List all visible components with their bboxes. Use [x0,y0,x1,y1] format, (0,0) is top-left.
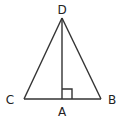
label-c: C [6,93,14,107]
label-b: B [108,93,116,107]
segment-db [62,18,101,99]
triangle-diagram: D C B A [0,0,119,119]
segment-dc [24,18,62,99]
label-a: A [58,105,67,119]
label-d: D [57,3,66,17]
right-angle-marker [62,89,72,99]
